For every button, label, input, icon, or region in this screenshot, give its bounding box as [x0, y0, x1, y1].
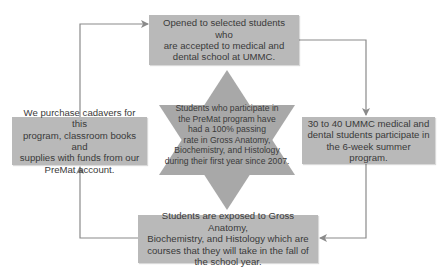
node-bottom-text: Students are exposed to Gross Anatomy, B…	[142, 210, 314, 267]
node-top-text: Opened to selected students who are acce…	[153, 17, 295, 63]
node-right: 30 to 40 UMMC medical and dental student…	[302, 117, 435, 164]
arrow-left-to-top	[80, 24, 148, 117]
node-bottom: Students are exposed to Gross Anatomy, B…	[138, 215, 318, 263]
arrow-right-to-bottom	[320, 163, 366, 238]
node-right-text: 30 to 40 UMMC medical and dental student…	[306, 118, 431, 164]
arrow-bottom-to-left	[80, 167, 138, 238]
node-left: We purchase cadavers for this program, c…	[12, 117, 147, 165]
center-star-text: Students who participate in the PreMat p…	[160, 103, 294, 167]
arrow-top-to-right	[298, 40, 366, 115]
node-left-text: We purchase cadavers for this program, c…	[16, 107, 143, 175]
node-top: Opened to selected students who are acce…	[149, 15, 299, 65]
